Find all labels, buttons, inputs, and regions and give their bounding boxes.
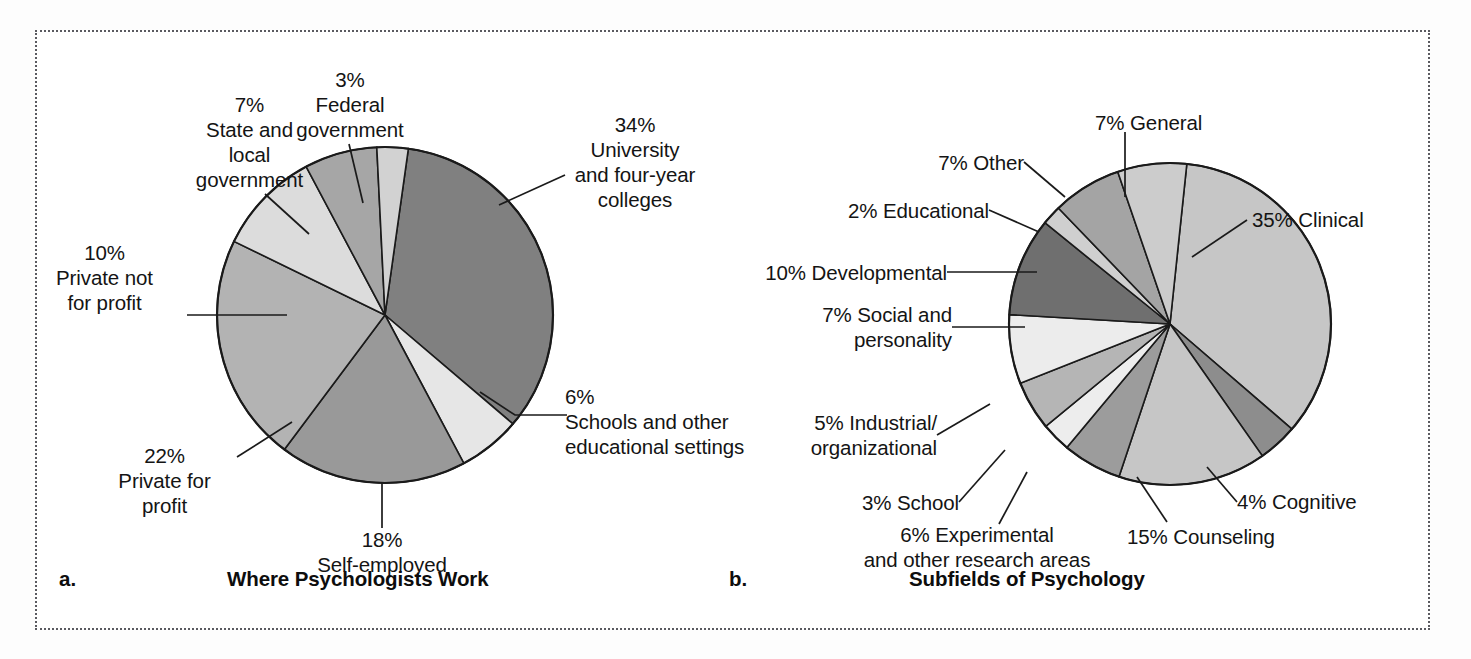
label-university-and-four-year-colleges: 34% University and four-year colleges	[535, 112, 735, 212]
label-school: 3% School	[777, 490, 959, 515]
label-social-and-personality: 7% Social and personality	[747, 302, 952, 352]
panel-subfields-of-psychology: 7% General 35% Clinical 4% Cognitive 15%…	[737, 32, 1432, 632]
label-private-not-for-profit: 10% Private not for profit	[17, 240, 192, 315]
figure-page: 34% University and four-year colleges 6%…	[0, 0, 1471, 659]
label-federal-government: 3% Federal government	[275, 67, 425, 142]
label-experimental-and-other-research-areas: 6% Experimental and other research areas	[832, 522, 1122, 572]
leader-other	[1024, 162, 1065, 197]
figure-frame: 34% University and four-year colleges 6%…	[35, 30, 1430, 630]
leader-educational	[989, 210, 1039, 232]
label-developmental: 10% Developmental	[732, 260, 947, 285]
panel-caption-b: Subfields of Psychology	[909, 567, 1145, 591]
panel-letter-b: b.	[729, 567, 747, 591]
panel-where-psychologists-work: 34% University and four-year colleges 6%…	[37, 32, 737, 632]
label-cognitive: 4% Cognitive	[1237, 489, 1427, 514]
label-other: 7% Other	[847, 150, 1024, 175]
leader-experimental	[999, 472, 1027, 524]
label-general: 7% General	[1095, 110, 1315, 135]
label-private-for-profit: 22% Private for profit	[77, 443, 252, 518]
leader-industrial	[937, 404, 990, 435]
panel-letter-a: a.	[59, 567, 76, 591]
label-clinical: 35% Clinical	[1252, 207, 1452, 232]
label-industrial-organizational: 5% Industrial/ organizational	[747, 410, 937, 460]
panel-caption-a: Where Psychologists Work	[227, 567, 489, 591]
label-counseling: 15% Counseling	[1127, 524, 1327, 549]
leader-school	[959, 450, 1005, 502]
label-educational: 2% Educational	[777, 198, 989, 223]
